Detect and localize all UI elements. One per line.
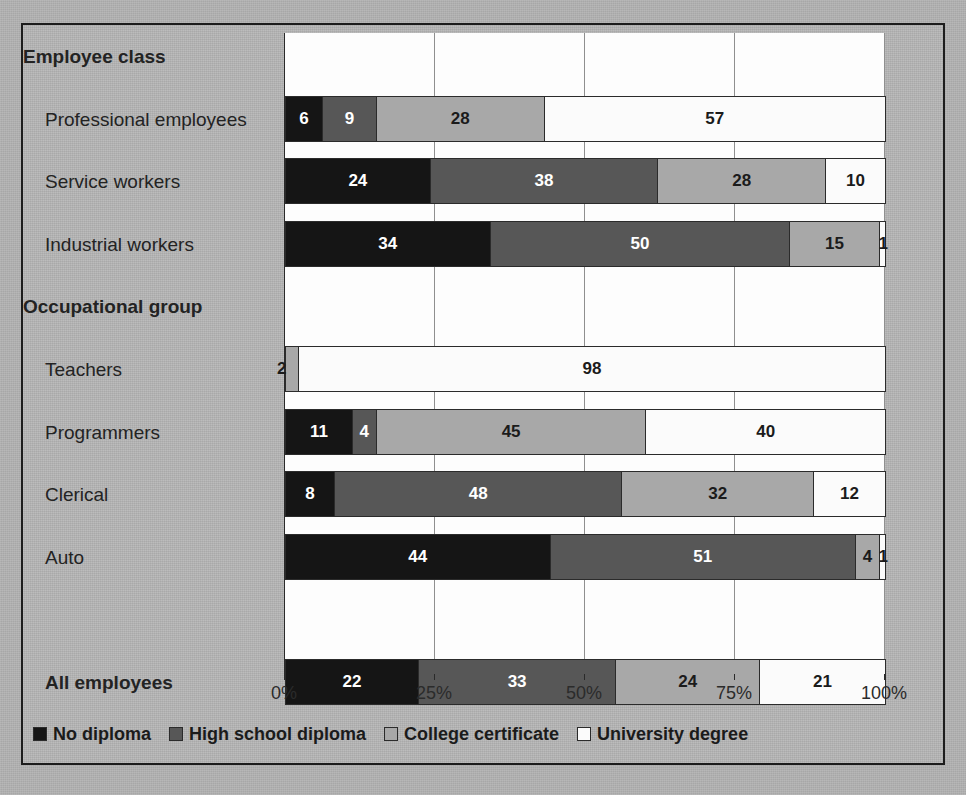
spacer-row [23, 596, 947, 659]
bar-segment-value: 50 [630, 234, 649, 254]
bar-segment-value: 11 [310, 422, 328, 442]
bar-segment[interactable]: 15 [789, 222, 879, 266]
bar-segment-value: 98 [583, 359, 602, 379]
row-category-label: Teachers [23, 360, 273, 379]
bar-segment[interactable]: 48 [334, 472, 622, 516]
bar-segment-value: 21 [813, 672, 832, 692]
stacked-bar[interactable]: 692857 [285, 96, 886, 142]
stacked-bar[interactable]: 3450151 [285, 221, 886, 267]
bar-segment[interactable]: 98 [298, 347, 885, 391]
legend-item[interactable]: No diploma [33, 724, 151, 745]
bar-segment[interactable]: 24 [286, 159, 430, 203]
bar-segment[interactable]: 38 [430, 159, 658, 203]
bar-segment-value: 51 [693, 547, 712, 567]
bar-segment[interactable]: 34 [286, 222, 490, 266]
axis-tick-mark [584, 674, 585, 680]
bar-segment-value: 15 [825, 234, 844, 254]
stacked-bar[interactable]: 445141 [285, 534, 886, 580]
axis-tick-label: 100% [861, 683, 907, 704]
row-category-label: Service workers [23, 172, 273, 191]
row-category-label: Clerical [23, 485, 273, 504]
bar-segment[interactable]: 1 [879, 535, 885, 579]
bar-segment[interactable]: 57 [544, 97, 885, 141]
group-header-row: Employee class [23, 33, 947, 96]
legend-label: College certificate [404, 724, 559, 745]
bar-segment[interactable]: 6 [286, 97, 322, 141]
bar-segment-value: 32 [708, 484, 727, 504]
legend-swatch-icon [169, 727, 183, 741]
legend-swatch-icon [577, 727, 591, 741]
bar-segment[interactable]: 32 [621, 472, 813, 516]
bar-segment-value: 28 [732, 171, 751, 191]
bar-segment[interactable]: 50 [490, 222, 790, 266]
bar-segment[interactable]: 22 [286, 660, 418, 704]
page-background: Employee classProfessional employees6928… [0, 0, 966, 795]
bar-segment[interactable]: 2 [286, 347, 298, 391]
bar-segment-value: 33 [508, 672, 527, 692]
bar-segment[interactable]: 12 [813, 472, 885, 516]
bar-segment[interactable]: 9 [322, 97, 376, 141]
axis-tick-label: 50% [566, 683, 602, 704]
bar-segment-value: 22 [342, 672, 361, 692]
legend-item[interactable]: College certificate [384, 724, 559, 745]
bar-segment[interactable]: 51 [550, 535, 855, 579]
bar-segment[interactable]: 4 [855, 535, 879, 579]
bar-segment-value: 1 [879, 234, 888, 254]
bar-segment-value: 4 [360, 422, 369, 442]
legend-item[interactable]: University degree [577, 724, 748, 745]
bar-segment[interactable]: 10 [825, 159, 885, 203]
group-header-label: Employee class [23, 47, 273, 66]
stacked-bar[interactable]: 24382810 [285, 158, 886, 204]
chart-legend: No diplomaHigh school diplomaCollege cer… [33, 717, 933, 751]
bar-segment-value: 12 [840, 484, 859, 504]
bar-segment-value: 24 [678, 672, 697, 692]
stacked-bar[interactable]: 8483212 [285, 471, 886, 517]
legend-swatch-icon [384, 727, 398, 741]
row-category-label: All employees [23, 673, 273, 692]
bar-segment-value: 2 [277, 359, 286, 379]
chart-row: Service workers24382810 [23, 158, 947, 221]
axis-tick-mark [284, 674, 285, 680]
bar-segment-value: 4 [863, 547, 872, 567]
chart-rows: Employee classProfessional employees6928… [23, 25, 943, 763]
bar-segment[interactable]: 11 [286, 410, 352, 454]
bar-segment-value: 44 [408, 547, 427, 567]
bar-segment[interactable]: 1 [879, 222, 885, 266]
row-category-label: Programmers [23, 423, 273, 442]
bar-segment[interactable]: 28 [657, 159, 825, 203]
axis-tick-mark [434, 674, 435, 680]
chart-row: Teachers298 [23, 346, 947, 409]
bar-segment-value: 38 [535, 171, 554, 191]
bar-segment-value: 6 [299, 109, 308, 129]
chart-row: Programmers1144540 [23, 409, 947, 472]
bar-segment-value: 34 [378, 234, 397, 254]
bar-segment-value: 57 [705, 109, 724, 129]
legend-label: No diploma [53, 724, 151, 745]
legend-label: University degree [597, 724, 748, 745]
axis-tick-label: 0% [271, 683, 297, 704]
group-header-row: Occupational group [23, 283, 947, 346]
stacked-bar[interactable]: 298 [285, 346, 886, 392]
chart-row: Clerical8483212 [23, 471, 947, 534]
bar-segment-value: 10 [846, 171, 865, 191]
bar-segment[interactable]: 28 [376, 97, 544, 141]
axis-tick-label: 75% [716, 683, 752, 704]
row-category-label: Auto [23, 548, 273, 567]
chart-frame: Employee classProfessional employees6928… [21, 23, 945, 765]
group-header-label: Occupational group [23, 297, 273, 316]
bar-segment[interactable]: 8 [286, 472, 334, 516]
bar-segment[interactable]: 4 [352, 410, 376, 454]
bar-segment[interactable]: 45 [376, 410, 646, 454]
bar-segment-value: 9 [345, 109, 354, 129]
bar-segment-value: 24 [348, 171, 367, 191]
chart-row: All employees22332421 [23, 659, 947, 722]
bar-segment[interactable]: 40 [645, 410, 885, 454]
axis-tick-label: 25% [416, 683, 452, 704]
bar-segment-value: 28 [451, 109, 470, 129]
legend-label: High school diploma [189, 724, 366, 745]
stacked-bar[interactable]: 1144540 [285, 409, 886, 455]
legend-item[interactable]: High school diploma [169, 724, 366, 745]
bar-segment-value: 48 [469, 484, 488, 504]
bar-segment[interactable]: 44 [286, 535, 550, 579]
bar-segment-value: 45 [502, 422, 521, 442]
